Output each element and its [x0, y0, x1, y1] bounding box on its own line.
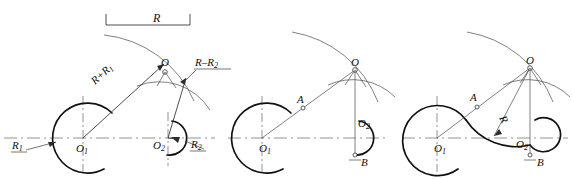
drawing-canvas: R R+R1 R–R2 R1 R2 O1 O2 O: [0, 0, 572, 179]
label-o1-middle: O1: [259, 142, 271, 156]
label-o2-middle: O2: [358, 117, 370, 131]
circle-r2-right: [530, 118, 561, 152]
panel-middle: O1 O2 O A B: [228, 32, 395, 173]
arrowhead-r2-left: [171, 137, 180, 143]
point-marker-b-right: [528, 153, 532, 157]
label-group-r-plus-r1-left: R+R1: [88, 61, 117, 89]
point-marker-b-middle: [353, 153, 357, 157]
label-point-b-middle: B: [361, 156, 368, 168]
label-group-r-right: R: [497, 112, 511, 125]
label-o2-left: O2: [153, 139, 165, 153]
arc-r-minus-r2-left: [137, 82, 210, 110]
arc-r-plus-r1-right: [467, 32, 553, 102]
label-dimension-r-left: R: [152, 11, 161, 25]
label-point-o-middle: O: [351, 56, 359, 68]
label-r-plus-r1-left: R+R1: [88, 61, 117, 89]
label-point-a-middle: A: [296, 93, 304, 105]
arrowhead-r-right: [494, 129, 502, 136]
line-o1-to-o-right: [437, 68, 530, 138]
arrowhead-r-minus-r2-left: [180, 78, 186, 85]
label-point-b-right: B: [537, 156, 544, 168]
leader-r-minus-r2-left: [186, 70, 196, 80]
label-o2-right: O2: [516, 138, 528, 152]
label-point-a-right: A: [469, 91, 477, 103]
label-point-o-left: O: [161, 56, 169, 68]
point-o-ticks-left: [157, 72, 176, 88]
label-radius-r-right: R: [497, 112, 511, 125]
arc-r-plus-r1-left: [104, 35, 194, 101]
point-marker-a-middle: [301, 106, 305, 110]
label-o1-right: O1: [434, 142, 446, 156]
label-o1-left: O1: [76, 142, 88, 156]
dimension-bracket-r-left: [106, 14, 190, 25]
point-marker-a-right: [475, 105, 479, 109]
label-r-minus-r2-left: R–R2: [194, 56, 218, 70]
arrowhead-r1-left: [48, 142, 56, 147]
panel-right: O1 O2 O A B R: [402, 32, 570, 176]
technical-drawing-figure: R R+R1 R–R2 R1 R2 O1 O2 O: [0, 0, 572, 179]
point-ticks-middle: [345, 70, 366, 160]
label-r2-left: R2: [190, 138, 202, 152]
arc-r-minus-r2-right: [503, 80, 570, 97]
radius-line-r-right: [494, 68, 530, 136]
panel-left: R R+R1 R–R2 R1 R2 O1 O2 O: [4, 11, 231, 173]
label-r1-left: R1: [11, 139, 23, 153]
arc-r-plus-r1-middle: [292, 32, 378, 102]
label-point-o-right: O: [526, 54, 534, 66]
circle-r1-right: [403, 106, 466, 176]
